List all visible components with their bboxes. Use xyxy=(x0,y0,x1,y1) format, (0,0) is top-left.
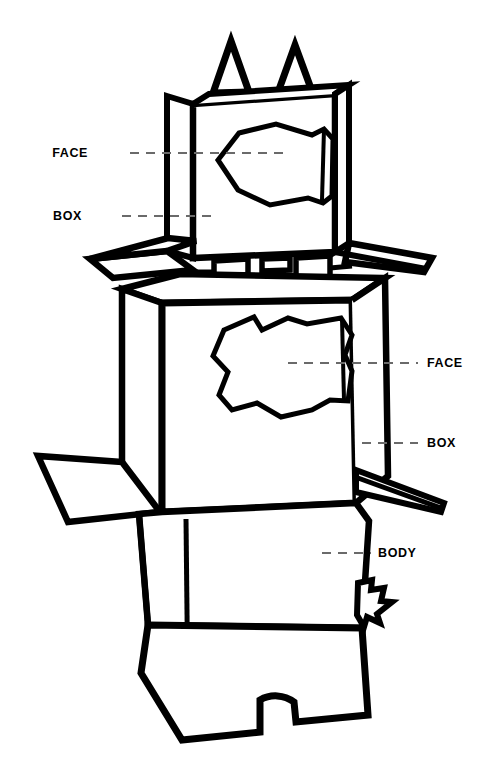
label-head-box: BOX xyxy=(53,210,82,223)
head-box-right-panel xyxy=(335,85,349,252)
label-head-face: FACE xyxy=(52,147,88,160)
jagged-hand-icon xyxy=(357,580,392,627)
head-box-left-panel xyxy=(167,96,193,258)
label-body-box: BOX xyxy=(427,437,456,450)
body-face-cutout xyxy=(213,317,352,417)
legs-panel xyxy=(141,625,368,740)
diagram-canvas: FACEBOXFACEBOXBODY xyxy=(0,0,488,777)
box-robot-illustration xyxy=(0,0,488,777)
head-face-cutout-inner-fold xyxy=(322,129,324,200)
body-face-cutout-fold xyxy=(342,319,344,400)
label-body-face: FACE xyxy=(427,357,463,370)
torso-lower-panel xyxy=(139,503,369,628)
label-body-body: BODY xyxy=(378,547,417,560)
